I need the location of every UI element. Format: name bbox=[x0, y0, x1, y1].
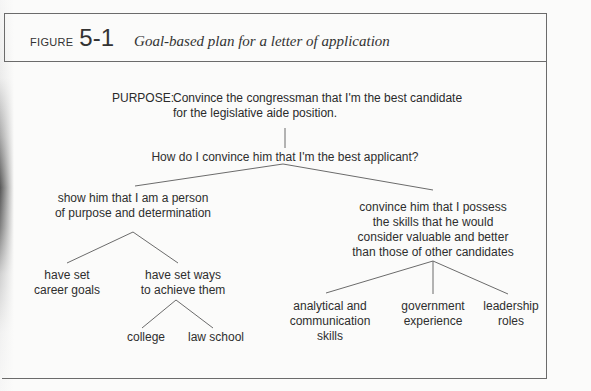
connector-question-left bbox=[135, 164, 283, 186]
node-government-experience: government experience bbox=[383, 299, 483, 329]
node-line: leadership bbox=[471, 299, 551, 314]
node-purpose-determination: show him that I am a person of purpose a… bbox=[33, 191, 233, 221]
node-career-goals: have set career goals bbox=[17, 268, 117, 298]
node-line: the skills that he would bbox=[333, 215, 533, 230]
node-line: government bbox=[383, 299, 483, 314]
question-node: How do I convince him that I'm the best … bbox=[135, 150, 435, 165]
node-analytical-communication: analytical and communication skills bbox=[280, 299, 380, 344]
node-line: convince him that I possess bbox=[333, 200, 533, 215]
node-line: of purpose and determination bbox=[33, 206, 233, 221]
node-line: communication bbox=[280, 314, 380, 329]
connector-question-right bbox=[283, 164, 433, 190]
node-college: college bbox=[116, 330, 176, 345]
node-line: show him that I am a person bbox=[33, 191, 233, 206]
node-line: to achieve them bbox=[133, 283, 233, 298]
node-line: have set ways bbox=[133, 268, 233, 283]
node-line: roles bbox=[471, 314, 551, 329]
connector-left-careergoals bbox=[67, 232, 133, 263]
node-law-school: law school bbox=[176, 330, 256, 345]
connector-setways-college bbox=[142, 300, 176, 328]
node-line: analytical and bbox=[280, 299, 380, 314]
node-leadership-roles: leadership roles bbox=[471, 299, 551, 329]
node-line: than those of other candidates bbox=[333, 245, 533, 260]
node-possess-skills: convince him that I possess the skills t… bbox=[333, 200, 533, 260]
node-line: career goals bbox=[17, 283, 117, 298]
connector-right-leadership bbox=[433, 261, 508, 294]
node-line: have set bbox=[17, 268, 117, 283]
node-line: consider valuable and better bbox=[333, 230, 533, 245]
connector-left-setways bbox=[133, 232, 178, 263]
node-line: experience bbox=[383, 314, 483, 329]
connector-right-analytical bbox=[326, 261, 433, 293]
node-line: skills bbox=[280, 329, 380, 344]
node-ways-to-achieve: have set ways to achieve them bbox=[133, 268, 233, 298]
connector-setways-lawschool bbox=[176, 300, 213, 328]
